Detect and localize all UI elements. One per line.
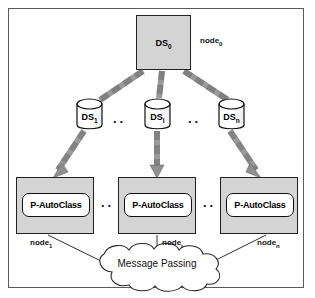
figure-distributed-p-autoclass: DS0 node0 DS1 DSi DSn .. .. P-AutoClass … bbox=[0, 0, 315, 298]
datastore-i-label: DSi bbox=[145, 112, 170, 124]
ellipsis-workers-left: .. bbox=[101, 196, 114, 209]
datastore-n-label-wrap: DSn bbox=[219, 99, 244, 131]
p-autoclass-process-n: P-AutoClass bbox=[226, 193, 294, 217]
arrow-master-to-datastore-i bbox=[159, 71, 162, 98]
datastore-0-label: DS0 bbox=[147, 38, 180, 50]
p-autoclass-process-i: P-AutoClass bbox=[124, 193, 192, 217]
worker-node-box-1: P-AutoClass bbox=[16, 177, 94, 234]
worker-node-label-i: nodei bbox=[162, 238, 183, 249]
master-node-label: node0 bbox=[200, 36, 222, 47]
arrow-datastore-i-to-worker-i bbox=[150, 131, 164, 178]
arrow-datastore-1-to-worker-1 bbox=[53, 131, 84, 178]
message-passing-label: Message Passing bbox=[97, 258, 217, 269]
datastore-i-label-wrap: DSi bbox=[145, 99, 170, 131]
worker-node-box-i: P-AutoClass bbox=[118, 177, 196, 234]
p-autoclass-process-1: P-AutoClass bbox=[22, 193, 90, 217]
arrow-master-to-datastore-1 bbox=[100, 71, 143, 100]
datastore-1-label-wrap: DS1 bbox=[77, 99, 102, 131]
datastore-1-label: DS1 bbox=[77, 112, 102, 124]
connector-worker-1-to-cloud bbox=[48, 235, 103, 262]
arrow-datastore-n-to-worker-n bbox=[230, 131, 261, 178]
worker-node-label-1: node1 bbox=[30, 238, 52, 249]
ellipsis-datastores-left: .. bbox=[113, 112, 126, 125]
ellipsis-datastores-right: .. bbox=[188, 112, 201, 125]
worker-node-label-n: noden bbox=[257, 238, 280, 249]
datastore-0-label-wrap: DS0 bbox=[147, 22, 180, 62]
worker-node-box-n: P-AutoClass bbox=[220, 177, 298, 234]
datastore-n-label: DSn bbox=[219, 112, 244, 124]
arrow-master-to-datastore-n bbox=[184, 71, 228, 100]
ellipsis-workers-right: .. bbox=[203, 196, 216, 209]
